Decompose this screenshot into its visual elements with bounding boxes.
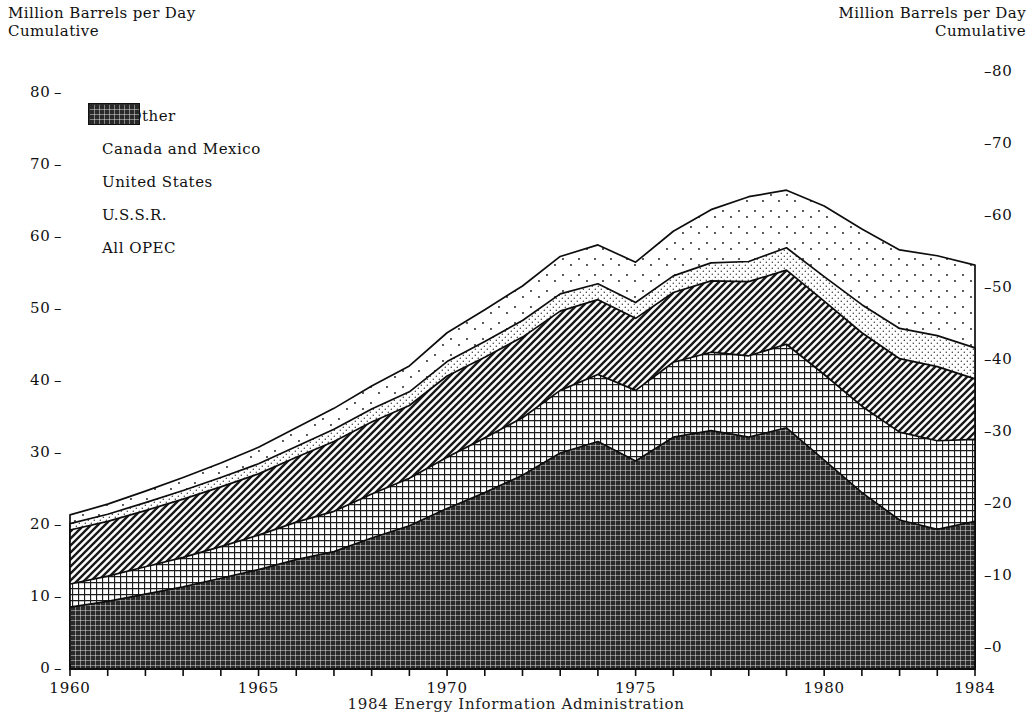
y-axis-left-tick: 20 – (0, 515, 62, 533)
y-axis-left-tick: 40 – (0, 371, 62, 389)
legend-label: United States (102, 173, 213, 191)
y-axis-right-tick: –0 (984, 638, 1002, 656)
legend-item[interactable]: All OPEC (88, 235, 261, 261)
legend-item[interactable]: U.S.S.R. (88, 202, 261, 228)
legend-label: All OPEC (102, 239, 176, 257)
y-axis-right-tick: –10 (984, 566, 1012, 584)
legend-swatch-all-opec (88, 103, 140, 125)
y-axis-left-tick: 0 – (0, 659, 62, 677)
chart-legend: All OtherCanada and MexicoUnited StatesU… (88, 103, 261, 268)
y-axis-right-tick: –80 (984, 62, 1012, 80)
legend-label: Canada and Mexico (102, 140, 261, 158)
legend-item[interactable]: United States (88, 169, 261, 195)
y-axis-right-tick: –20 (984, 494, 1012, 512)
legend-item[interactable]: Canada and Mexico (88, 136, 261, 162)
y-axis-left-tick: 10 – (0, 587, 62, 605)
y-axis-right-tick: –30 (984, 422, 1012, 440)
y-axis-right-tick: –60 (984, 206, 1012, 224)
source-note: 1984 Energy Information Administration (0, 695, 1032, 713)
y-axis-right-tick: –70 (984, 134, 1012, 152)
y-axis-left-tick: 70 – (0, 155, 62, 173)
y-axis-left-tick: 30 – (0, 443, 62, 461)
y-axis-left-tick: 80 – (0, 83, 62, 101)
y-axis-left-tick: 50 – (0, 299, 62, 317)
y-axis-left-tick: 60 – (0, 227, 62, 245)
y-axis-right-tick: –50 (984, 278, 1012, 296)
legend-label: U.S.S.R. (102, 206, 167, 224)
y-axis-right-tick: –40 (984, 350, 1012, 368)
